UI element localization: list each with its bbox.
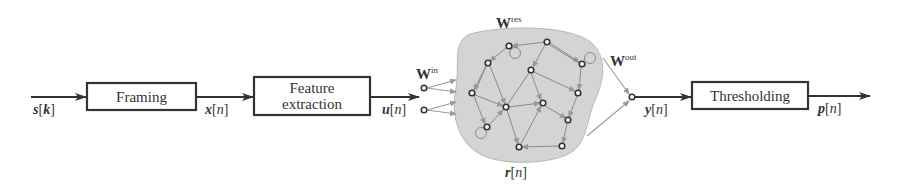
reservoir-node [484, 124, 490, 130]
reservoir-node [565, 117, 571, 123]
reservoir-node [559, 143, 565, 149]
feature-label-line1: Feature [290, 80, 335, 96]
thresholding-block: Thresholding [692, 82, 808, 109]
reservoir-node [540, 100, 546, 106]
reservoir-node [469, 90, 475, 96]
reservoir-node [579, 61, 585, 67]
signal-p-n: p[n] [817, 101, 841, 116]
input-weights [427, 80, 456, 114]
reservoir-pipeline-diagram: s[k] Framing x[n] Feature extraction u[n… [0, 0, 900, 191]
weight-label-w-in: Win [416, 65, 439, 82]
reservoir-node [503, 104, 509, 110]
signal-s-k: s[k] [32, 102, 55, 117]
reservoir-node [506, 43, 512, 49]
framing-block: Framing [87, 83, 196, 110]
feature-label-line2: extraction [282, 96, 342, 112]
signal-u-n: u[n] [382, 102, 406, 117]
reservoir-node [516, 144, 522, 150]
input-node-1 [421, 85, 427, 91]
reservoir-node [575, 90, 581, 96]
thresholding-label: Thresholding [710, 88, 790, 104]
reservoir-node [544, 39, 550, 45]
feature-extraction-block: Feature extraction [254, 77, 370, 115]
framing-label: Framing [116, 89, 167, 105]
signal-r-n: r[n] [505, 165, 527, 180]
reservoir-node [528, 67, 534, 73]
weight-label-w-out: Wout [610, 52, 637, 69]
signal-y-n: y[n] [643, 102, 668, 117]
reservoir-node [485, 60, 491, 66]
output-node [629, 94, 635, 100]
signal-x-n: x[n] [204, 102, 228, 117]
input-node-2 [421, 107, 427, 113]
